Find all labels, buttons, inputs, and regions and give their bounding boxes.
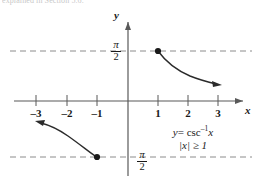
upper-asymptote-label: π 2 <box>108 39 124 63</box>
inverse-cosecant-graph-figure: explained in Section 5.6. <box>0 0 262 186</box>
y-axis-arrowhead <box>125 22 131 30</box>
upper-asymptote-numerator: π <box>108 39 124 50</box>
x-tick-label-pos2: 2 <box>180 108 196 119</box>
equation-equals-csc: = csc <box>178 126 201 138</box>
curve-upper-arrowhead <box>212 81 222 87</box>
endpoint-dot-lower <box>94 154 100 160</box>
x-axis-arrowhead <box>235 98 243 104</box>
upper-asymptote-denominator: 2 <box>108 52 124 63</box>
x-tick-label-pos1: 1 <box>150 108 166 119</box>
lower-asymptote-label: π 2 <box>134 149 150 173</box>
curve-upper-branch <box>158 51 216 84</box>
equation-line: y= csc–1x <box>150 124 236 139</box>
plot-canvas <box>0 0 262 186</box>
x-tick-label-neg2: –2 <box>58 108 76 119</box>
x-tick-label-neg3: –3 <box>27 108 45 119</box>
endpoint-dot-upper <box>155 48 161 54</box>
y-axis-label: y <box>114 10 119 21</box>
curve-lower-arrowhead <box>35 120 45 126</box>
curve-lower-branch <box>41 123 95 156</box>
equation-annotation: y= csc–1x |x| ≥ 1 <box>150 124 236 153</box>
lower-asymptote-denominator: 2 <box>134 162 150 173</box>
x-axis-label: x <box>245 105 251 116</box>
x-tick-label-neg1: –1 <box>88 108 106 119</box>
equation-x: x <box>208 126 213 138</box>
lower-asymptote-numerator: π <box>134 149 150 160</box>
equation-domain: |x| ≥ 1 <box>150 139 236 153</box>
x-tick-label-pos3: 3 <box>210 108 226 119</box>
